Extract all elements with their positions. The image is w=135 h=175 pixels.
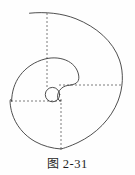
caption-number-text: 2-31 bbox=[63, 157, 88, 171]
outer-spiral-arc bbox=[30, 13, 123, 149]
dashed-construction-lines bbox=[11, 13, 122, 149]
spiral-diagram bbox=[0, 0, 135, 156]
figure-container: 图2-31 bbox=[0, 0, 135, 175]
caption-label-text: 图 bbox=[47, 157, 60, 171]
figure-caption: 图2-31 bbox=[0, 154, 135, 172]
outer-spiral-arc-lower-left bbox=[10, 99, 61, 149]
spiral-curves bbox=[10, 13, 122, 149]
